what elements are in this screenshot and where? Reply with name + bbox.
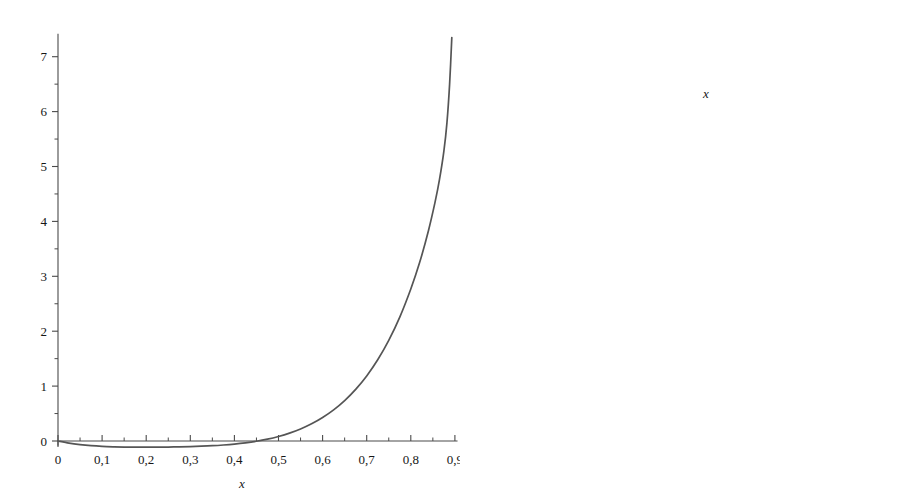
y-tick-label: 5 <box>41 159 48 174</box>
x-tick-label: 0,7 <box>359 452 376 467</box>
y-tick-label: 0 <box>41 434 48 449</box>
x-tick-label: 0 <box>55 452 62 467</box>
left-plot-svg: 00,10,20,30,40,50,60,70,80,901234567x <box>0 0 460 500</box>
x-tick-label: 0,5 <box>270 452 286 467</box>
y-tick-label: 3 <box>41 269 48 284</box>
y-tick-label: 1 <box>41 379 48 394</box>
y-tick-label: 2 <box>41 324 48 339</box>
y-tick-label: 4 <box>41 214 48 229</box>
x-tick-label: 0,1 <box>94 452 110 467</box>
x-tick-label: 0,3 <box>182 452 198 467</box>
x-tick-label: 0,4 <box>226 452 243 467</box>
data-curve <box>58 37 452 447</box>
y-tick-label: 6 <box>41 104 48 119</box>
x-tick-label: 0,6 <box>314 452 331 467</box>
figure-container: 00,10,20,30,40,50,60,70,80,901234567x 0,… <box>0 0 919 500</box>
x-tick-label: 0,8 <box>403 452 419 467</box>
left-plot-panel: 00,10,20,30,40,50,60,70,80,901234567x <box>0 0 460 500</box>
y-tick-label: 7 <box>41 49 48 64</box>
right-plot-svg: 0,10,20,30,40−0,02−0,04−0,06−0,08−0,10x <box>460 0 919 500</box>
x-tick-label: 0,2 <box>138 452 154 467</box>
x-axis-name: x <box>702 86 709 101</box>
x-tick-label: 0,9 <box>447 452 460 467</box>
right-plot-panel: 0,10,20,30,40−0,02−0,04−0,06−0,08−0,10x <box>460 0 919 500</box>
x-axis-name: x <box>238 476 245 491</box>
